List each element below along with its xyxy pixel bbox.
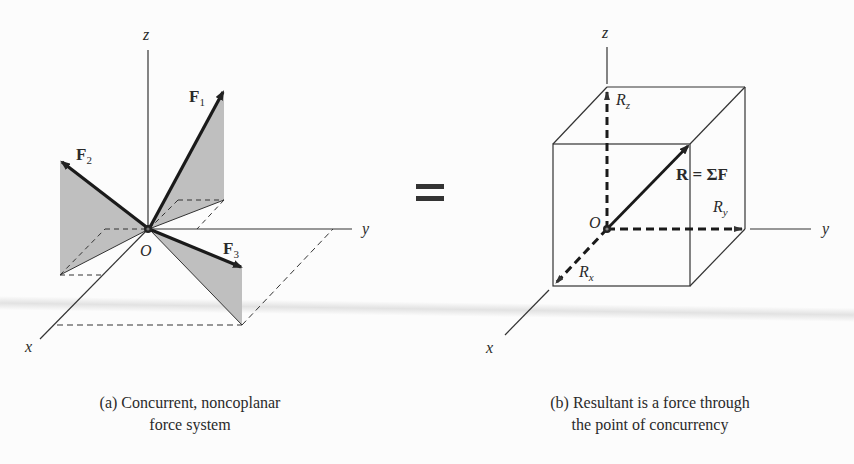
component-rx-label: Rx [579,264,594,283]
component-rx-subscript: x [589,271,594,283]
origin-point-a-center [146,227,149,230]
x-axis-label-a: x [25,339,32,355]
component-ry-subscript: y [723,206,728,218]
component-rz-label: Rz [616,92,630,111]
component-ry-symbol: R [713,198,723,215]
origin-label-a: O [140,243,152,259]
force-f1-label: F1 [189,88,205,108]
force-f2-symbol: F [76,145,86,164]
x-axis-label-b: x [486,340,493,356]
equals-sign [416,182,444,204]
component-rx-symbol: R [579,263,589,280]
caption-b: (b) Resultant is a force through the poi… [500,392,800,436]
z-axis-label-a: z [143,27,149,43]
force-f1-subscript: 1 [199,96,205,108]
force-f2-subscript: 2 [86,154,92,166]
caption-a: (a) Concurrent, noncoplanar force system [40,392,340,436]
figure-b-resultant [505,47,811,335]
force-f2-label: F2 [76,146,92,166]
resultant-label: R = ΣF [676,166,728,183]
x-axis-b [505,290,549,335]
force-f3-symbol: F [223,239,233,258]
caption-b-line2: the point of concurrency [500,414,800,436]
resultant-r-arrow [607,146,688,229]
component-rz-symbol: R [616,91,626,108]
component-ry-label: Ry [713,199,728,218]
y-axis-label-a: y [362,221,369,237]
diagram-page: z y x O F1 F2 F3 z y x O R = ΣF Rz Ry Rx… [0,0,854,464]
y-axis-label-b: y [822,221,829,237]
z-axis-label-b: z [602,25,608,41]
component-rz-subscript: z [626,99,630,111]
f3-dashed-x [242,229,333,325]
caption-a-line2: force system [40,414,340,436]
caption-b-line1: (b) Resultant is a force through [500,392,800,414]
origin-label-b: O [589,215,601,231]
force-f3-subscript: 3 [233,248,239,260]
caption-a-line1: (a) Concurrent, noncoplanar [40,392,340,414]
force-f3-label: F3 [223,240,239,260]
origin-point-b-center [605,227,608,230]
force-f1-symbol: F [189,87,199,106]
